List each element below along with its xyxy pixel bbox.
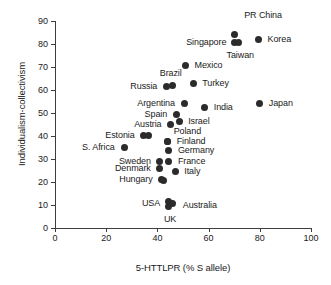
data-point-label: Singapore — [186, 38, 226, 47]
data-point — [160, 177, 167, 184]
data-point-label: Taiwan — [227, 51, 254, 60]
x-tick-mark — [106, 228, 107, 232]
x-tick-label: 100 — [296, 234, 326, 243]
data-point — [163, 83, 170, 90]
x-tick-mark — [157, 228, 158, 232]
data-point — [255, 36, 262, 43]
data-point-label: Germany — [178, 146, 214, 155]
data-point — [182, 62, 189, 69]
data-point — [165, 147, 172, 154]
y-tick-label: 70 — [26, 63, 48, 72]
data-point-label: Estonia — [105, 131, 134, 140]
data-point — [156, 158, 163, 165]
x-axis-line — [55, 228, 311, 229]
data-point-label: Hungary — [119, 175, 152, 184]
data-point — [156, 165, 163, 172]
data-point-label: India — [214, 103, 233, 112]
data-point — [176, 118, 183, 125]
y-tick-label: 40 — [26, 132, 48, 141]
data-point-label: S. Africa — [82, 143, 115, 152]
x-axis-title: 5-HTTLPR (% S allele) — [55, 262, 311, 273]
data-point-label: France — [178, 157, 205, 166]
y-tick-label: 10 — [26, 201, 48, 210]
y-tick-label: 80 — [26, 40, 48, 49]
y-tick-mark — [51, 136, 55, 137]
data-point-label: Denmark — [115, 164, 151, 173]
y-tick-label: 60 — [26, 86, 48, 95]
x-tick-label: 40 — [142, 234, 172, 243]
data-point — [164, 138, 171, 145]
y-tick-mark — [51, 67, 55, 68]
y-tick-mark — [51, 205, 55, 206]
y-tick-mark — [51, 44, 55, 45]
data-point-label: Brazil — [160, 69, 182, 78]
x-tick-mark — [311, 228, 312, 232]
data-point-label: Japan — [269, 99, 293, 108]
data-point — [169, 82, 176, 89]
x-tick-mark — [260, 228, 261, 232]
x-tick-label: 0 — [40, 234, 70, 243]
data-point — [167, 121, 174, 128]
data-point — [165, 203, 172, 210]
y-tick-label: 0 — [26, 224, 48, 233]
y-tick-mark — [51, 90, 55, 91]
x-tick-mark — [55, 228, 56, 232]
data-point-label: Russia — [130, 82, 157, 91]
y-tick-mark — [51, 113, 55, 114]
x-tick-label: 80 — [245, 234, 275, 243]
data-point — [145, 132, 152, 139]
y-tick-label: 50 — [26, 109, 48, 118]
y-tick-mark — [51, 21, 55, 22]
data-point — [121, 144, 128, 151]
y-tick-mark — [51, 182, 55, 183]
data-point-label: Spain — [145, 110, 168, 119]
data-point-label: Italy — [184, 167, 200, 176]
data-point-label: Australia — [183, 201, 217, 210]
data-point — [173, 111, 180, 118]
data-point-label: Mexico — [195, 61, 223, 70]
data-point-label: Argentina — [137, 99, 175, 108]
x-tick-label: 60 — [194, 234, 224, 243]
data-point-label: UK — [164, 215, 176, 224]
data-point — [201, 104, 208, 111]
scatter-plot-figure: Individualism-collectivism 5-HTTLPR (% S… — [0, 0, 331, 285]
data-point-label: USA — [142, 199, 160, 208]
y-tick-label: 90 — [26, 17, 48, 26]
data-point — [256, 100, 263, 107]
data-point-label: Turkey — [202, 79, 229, 88]
data-point-label: Austria — [134, 120, 161, 129]
data-point — [165, 158, 172, 165]
plot-area: 0102030405060708090020406080100PR ChinaS… — [55, 21, 311, 228]
y-tick-mark — [51, 159, 55, 160]
data-point — [181, 100, 188, 107]
data-point-label: Korea — [268, 35, 292, 44]
data-point-label: PR China — [244, 11, 282, 20]
data-point — [172, 168, 179, 175]
x-tick-mark — [209, 228, 210, 232]
data-point-label: Poland — [174, 127, 201, 136]
y-tick-label: 20 — [26, 178, 48, 187]
data-point — [235, 39, 242, 46]
data-point — [231, 31, 238, 38]
data-point-label: Israel — [188, 117, 209, 126]
x-tick-label: 20 — [91, 234, 121, 243]
data-point — [190, 80, 197, 87]
y-tick-label: 30 — [26, 155, 48, 164]
